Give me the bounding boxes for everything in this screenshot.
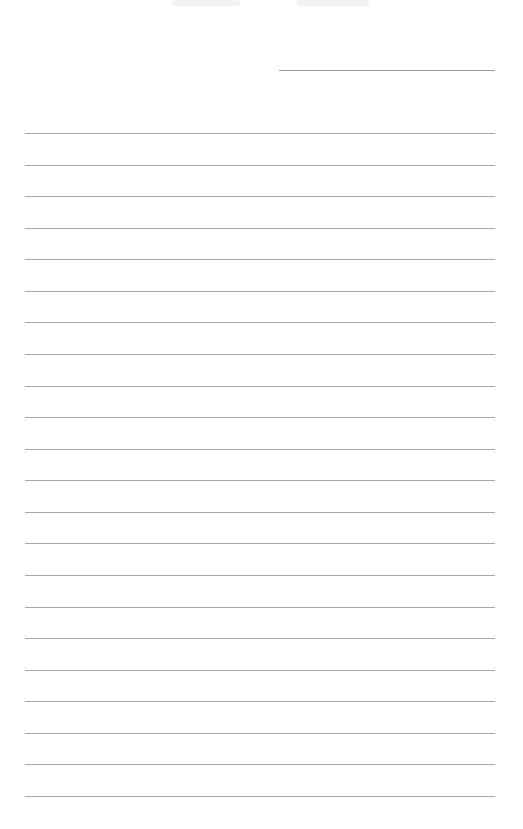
ruled-line <box>25 575 495 576</box>
ruled-line <box>25 386 495 387</box>
ruled-line <box>25 512 495 513</box>
ruled-line <box>25 796 495 797</box>
ruled-line <box>25 133 495 134</box>
ruled-line <box>25 196 495 197</box>
ruled-line <box>25 291 495 292</box>
ruled-line <box>25 354 495 355</box>
ruled-line <box>25 701 495 702</box>
ruled-line <box>25 638 495 639</box>
ruled-line <box>25 165 495 166</box>
ruled-line <box>25 764 495 765</box>
lined-paper-page <box>0 0 523 829</box>
ruled-line <box>25 417 495 418</box>
ruled-line <box>25 449 495 450</box>
ruled-line <box>25 733 495 734</box>
ruled-line <box>25 480 495 481</box>
ruled-line <box>25 543 495 544</box>
ruled-line <box>25 607 495 608</box>
ruled-line <box>25 228 495 229</box>
ruled-line <box>25 259 495 260</box>
header-name-line <box>279 70 495 71</box>
ruled-line <box>25 322 495 323</box>
faint-bleed-through-mark <box>172 0 240 6</box>
faint-bleed-through-mark <box>297 0 369 6</box>
ruled-line <box>25 670 495 671</box>
